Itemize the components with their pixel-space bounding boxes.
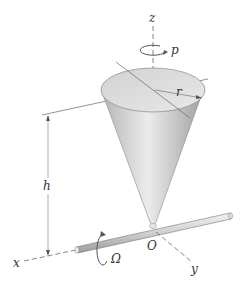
cone: [101, 68, 205, 229]
radius-label: r: [176, 86, 182, 98]
x-axis-label: x: [13, 257, 20, 269]
y-axis-label: y: [191, 263, 198, 275]
precession-rate-label: Ω: [111, 253, 121, 265]
diagram-graphics: [0, 0, 247, 287]
origin-label: O: [147, 240, 157, 252]
cone-gyroscope-diagram: z p r h x Ω O y: [0, 0, 247, 287]
z-axis-label: z: [149, 12, 155, 24]
height-label: h: [43, 180, 51, 192]
x-axis: [24, 250, 76, 261]
y-axis: [156, 232, 192, 262]
spin-arrow-icon: [140, 45, 168, 55]
spin-rate-label: p: [171, 44, 179, 56]
